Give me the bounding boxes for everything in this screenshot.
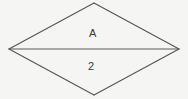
lower-region-label: 2 xyxy=(0,61,188,72)
rhombus-figure xyxy=(0,0,188,99)
diagram-canvas: A 2 xyxy=(0,0,188,99)
upper-region-label: A xyxy=(0,28,188,39)
